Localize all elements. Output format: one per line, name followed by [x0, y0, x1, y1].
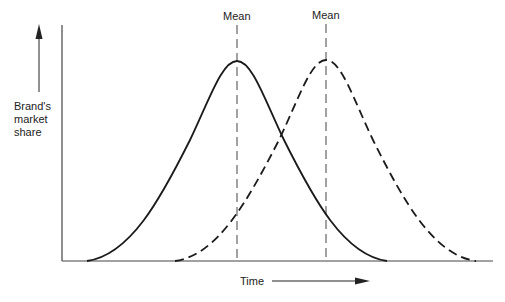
x-axis-label: Time: [240, 275, 264, 288]
diagram-canvas: [0, 0, 505, 302]
y-axis-label-line-3: share: [14, 126, 62, 139]
solid-curve: [87, 61, 387, 261]
mean-label-2: Mean: [312, 9, 340, 22]
y-axis-arrow-icon: [36, 24, 43, 92]
y-axis-label-line-1: Brand's: [14, 100, 62, 113]
y-axis-label-line-2: market: [14, 113, 62, 126]
mean-label-1: Mean: [223, 10, 251, 23]
x-axis-arrow-icon: [272, 278, 370, 285]
y-axis-label: Brand's market share: [14, 100, 62, 139]
dashed-curve: [175, 60, 476, 261]
